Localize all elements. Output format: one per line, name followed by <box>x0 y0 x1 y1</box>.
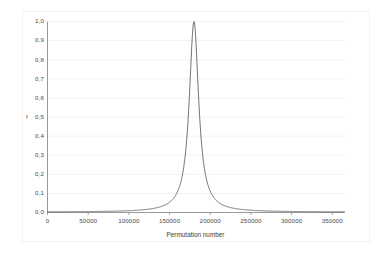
x-tick-label: 50000 <box>68 217 108 224</box>
y-tick-label: 0,6 <box>22 94 44 101</box>
y-tick-label: 1,0 <box>22 17 44 24</box>
y-tick-label: 0,4 <box>22 132 44 139</box>
x-tick-label: 200000 <box>190 217 230 224</box>
x-tick-label: 300000 <box>272 217 312 224</box>
y-axis-title: f <box>26 113 28 120</box>
y-tick-label: 0,8 <box>22 56 44 63</box>
y-tick-label: 0,0 <box>22 208 44 215</box>
y-tick-label: 0,1 <box>22 189 44 196</box>
x-tick-label: 0 <box>28 217 68 224</box>
y-tick-label: 0,3 <box>22 151 44 158</box>
x-tick-label: 100000 <box>109 217 149 224</box>
x-tick-label: 150000 <box>150 217 190 224</box>
x-axis-title: Permutation number <box>47 231 344 238</box>
y-tick-label: 0,7 <box>22 75 44 82</box>
chart-container: 0,00,10,20,30,40,50,60,70,80,91,0 050000… <box>0 0 381 258</box>
y-tick-label: 0,9 <box>22 36 44 43</box>
x-tick-label: 350000 <box>312 217 352 224</box>
x-tick-label: 250000 <box>231 217 271 224</box>
y-tick-label: 0,2 <box>22 170 44 177</box>
